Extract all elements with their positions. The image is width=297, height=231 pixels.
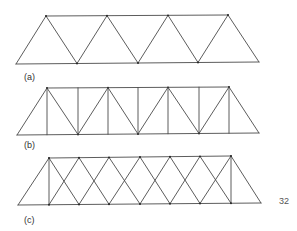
diagonal-member [138,87,168,134]
diagonal-member [77,16,107,64]
diagonal-member [78,88,108,135]
joint-node [78,157,80,159]
diagonal-member [46,16,77,63]
diagonal-member [198,15,228,63]
joint-node [197,62,199,64]
diagonal-member [168,15,198,62]
joint-node [45,15,47,17]
diagonal-member [17,88,47,135]
truss-c-lattice [18,155,261,206]
joint-node [227,14,229,16]
diagonal-member [228,15,259,62]
joint-node [230,202,232,204]
diagonal-member [199,87,229,133]
figure-label-b: (b) [24,141,35,150]
diagonal-member [47,88,78,134]
truss-a-warren [16,14,259,64]
diagonal-member [168,87,199,133]
joint-node [199,203,201,205]
joint-node [230,155,232,157]
joint-node [137,62,139,64]
end-post-right [231,156,261,203]
page-number: 32 [279,197,289,206]
diagonal-member [16,16,46,64]
figure-label-c: (c) [24,216,35,225]
diagonal-member [108,88,138,134]
joint-node [169,203,171,205]
truss-diagram [0,0,297,231]
diagonal-member [138,15,168,63]
top-chord [46,15,228,16]
truss-b-warren-with-verticals [17,86,259,135]
joint-node [108,156,110,158]
end-post-left [18,158,49,205]
joint-node [169,156,171,158]
joint-node [108,203,110,205]
joint-node [48,157,50,159]
joint-node [48,204,50,206]
joint-node [76,63,78,65]
joint-node [78,204,80,206]
diagonal-member [229,87,259,133]
diagonal-member [107,16,138,63]
figure-label-a: (a) [24,73,35,82]
joint-node [139,203,141,205]
joint-node [167,14,169,16]
joint-node [106,15,108,17]
joint-node [199,155,201,157]
joint-node [139,156,141,158]
